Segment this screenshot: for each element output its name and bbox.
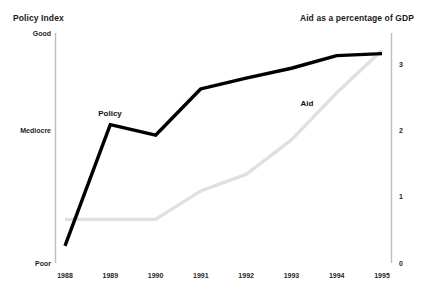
left-tick-good: Good <box>33 30 51 37</box>
x-tick-1992: 1992 <box>238 272 254 279</box>
x-tick-1993: 1993 <box>284 272 300 279</box>
x-tick-1988: 1988 <box>57 272 73 279</box>
line-chart-svg <box>0 0 425 300</box>
policy-series-line <box>65 54 382 246</box>
left-tick-mediocre: Mediocre <box>20 126 51 133</box>
right-tick-2: 2 <box>399 126 403 133</box>
chart-page: Policy Index Aid as a percentage of GDP … <box>0 0 425 300</box>
x-tick-1994: 1994 <box>329 272 345 279</box>
aid-series-line <box>65 50 382 219</box>
x-tick-1991: 1991 <box>193 272 209 279</box>
x-tick-1989: 1989 <box>102 272 118 279</box>
policy-series-label: Policy <box>98 109 122 118</box>
left-tick-poor: Poor <box>35 260 51 267</box>
aid-series-label: Aid <box>301 99 314 108</box>
x-tick-1990: 1990 <box>148 272 164 279</box>
right-tick-1: 1 <box>399 193 403 200</box>
right-tick-3: 3 <box>399 60 403 67</box>
x-tick-1995: 1995 <box>374 272 390 279</box>
right-tick-0: 0 <box>399 259 403 266</box>
